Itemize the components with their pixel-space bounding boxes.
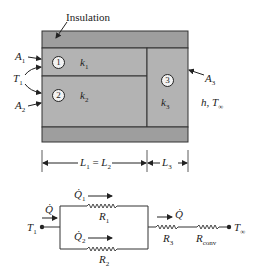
a1-arrow — [28, 57, 41, 59]
t1-node-label: T1 — [27, 222, 37, 233]
insulation-top — [42, 31, 188, 48]
a2-label: A2 — [15, 100, 25, 111]
resistor-r1 — [87, 204, 117, 208]
a2-arrow — [28, 103, 41, 106]
resistor-r3 — [156, 225, 178, 229]
layer-3-number: 3 — [161, 74, 174, 87]
q-total-label: Q̇ — [45, 204, 53, 215]
r2-label: R2 — [99, 254, 109, 265]
insulation-label: Insulation — [66, 12, 110, 23]
t1-wall-label: T1 — [13, 73, 23, 84]
t1-arrow-lower — [25, 84, 41, 93]
a3-label: A3 — [205, 73, 215, 84]
convection-label: h, T∞ — [201, 97, 223, 108]
resistor-r2 — [87, 247, 117, 251]
k1-label: k1 — [80, 57, 88, 68]
layer-3 — [147, 48, 188, 127]
q-right-label: Q̇ — [175, 209, 183, 220]
composite-wall-diagram — [0, 0, 260, 271]
rconv-label: Rconv — [196, 233, 216, 244]
k2-label: k2 — [80, 90, 88, 101]
l3-dimension-label: L3 — [162, 157, 172, 168]
l1-l2-dimension-label: L1 = L2 — [80, 157, 111, 168]
t-infinity-node-label: T∞ — [234, 222, 245, 233]
a3-arrow — [189, 70, 204, 75]
insulation-bottom — [42, 127, 188, 142]
t1-arrow-upper — [25, 67, 41, 75]
resistor-rconv — [197, 225, 219, 229]
q2-label: Q̇2 — [74, 231, 85, 242]
layer-2-number: 2 — [52, 89, 65, 102]
r1-label: R1 — [99, 211, 109, 222]
r3-label: R3 — [163, 233, 173, 244]
a1-label: A1 — [15, 51, 25, 62]
q1-label: Q̇1 — [74, 189, 85, 200]
layer-1-number: 1 — [52, 56, 65, 69]
t-infinity-node — [227, 225, 231, 229]
k3-label: k3 — [161, 97, 169, 108]
